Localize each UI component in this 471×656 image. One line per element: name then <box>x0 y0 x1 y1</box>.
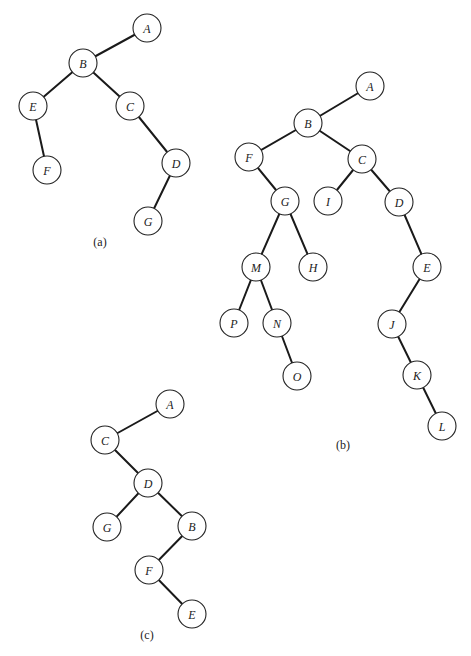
tree-node-G: G <box>271 187 299 215</box>
tree-caption: (b) <box>336 438 350 452</box>
node-label: G <box>144 215 153 229</box>
node-label: F <box>144 564 153 578</box>
tree-node-E: E <box>413 253 441 281</box>
node-label: B <box>304 117 312 131</box>
tree-node-L: L <box>428 412 456 440</box>
tree-node-B: B <box>294 109 322 137</box>
node-label: G <box>281 195 290 209</box>
node-label: C <box>126 100 135 114</box>
tree-node-C: C <box>348 145 376 173</box>
tree-node-H: H <box>299 253 327 281</box>
tree-node-N: N <box>263 309 291 337</box>
tree-node-M: M <box>242 253 270 281</box>
tree-a: ABECFDG(a) <box>19 14 190 249</box>
node-label: D <box>394 196 404 210</box>
tree-node-C: C <box>91 426 119 454</box>
binary-trees-figure: ABECFDG(a) ABFCGIDMHEPNJOKL(b) ACDGBFE(c… <box>0 0 471 656</box>
node-label: A <box>365 80 374 94</box>
node-label: K <box>412 369 422 383</box>
tree-caption: (a) <box>93 235 106 249</box>
node-label: C <box>101 434 110 448</box>
tree-node-F: F <box>33 156 61 184</box>
tree-node-E: E <box>178 600 206 628</box>
node-label: L <box>438 420 446 434</box>
node-label: D <box>171 157 181 171</box>
node-label: E <box>187 608 196 622</box>
tree-node-G: G <box>93 513 121 541</box>
tree-node-A: A <box>133 14 161 42</box>
tree-node-F: F <box>135 556 163 584</box>
node-label: O <box>293 370 302 384</box>
tree-node-G: G <box>134 207 162 235</box>
node-label: E <box>28 100 37 114</box>
node-label: M <box>250 261 262 275</box>
tree-node-E: E <box>19 92 47 120</box>
node-label: H <box>308 261 319 275</box>
tree-node-P: P <box>220 309 248 337</box>
tree-node-D: D <box>385 188 413 216</box>
node-label: N <box>272 317 282 331</box>
tree-node-D: D <box>134 469 162 497</box>
node-label: A <box>142 22 151 36</box>
tree-node-C: C <box>116 92 144 120</box>
tree-node-J: J <box>378 310 406 338</box>
tree-caption: (c) <box>140 628 153 642</box>
node-label: B <box>188 520 196 534</box>
tree-b: ABFCGIDMHEPNJOKL(b) <box>220 72 456 452</box>
tree-node-K: K <box>403 361 431 389</box>
tree-node-D: D <box>162 149 190 177</box>
node-label: F <box>42 164 51 178</box>
node-label: C <box>358 153 367 167</box>
node-label: B <box>79 57 87 71</box>
node-label: G <box>103 521 112 535</box>
node-label: J <box>389 318 395 332</box>
node-label: D <box>143 477 153 491</box>
tree-node-A: A <box>156 390 184 418</box>
tree-node-A: A <box>356 72 384 100</box>
node-label: E <box>422 261 431 275</box>
node-label: F <box>244 151 253 165</box>
tree-node-B: B <box>69 49 97 77</box>
tree-node-O: O <box>283 362 311 390</box>
node-label: P <box>229 317 238 331</box>
tree-node-I: I <box>314 187 342 215</box>
tree-node-F: F <box>235 143 263 171</box>
node-label: A <box>165 398 174 412</box>
tree-node-B: B <box>178 512 206 540</box>
tree-c: ACDGBFE(c) <box>91 390 206 642</box>
